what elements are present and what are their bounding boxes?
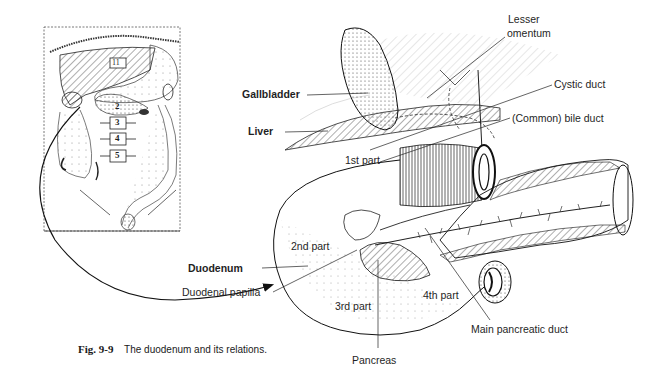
vertebra-5-label: 5 [115, 151, 120, 160]
label-pancreas: Pancreas [352, 355, 396, 366]
label-cystic-duct: Cystic duct [554, 79, 605, 90]
vertebra-4-label: 4 [115, 134, 120, 143]
label-liver: Liver [248, 126, 273, 137]
label-1st-part: 1st part [345, 155, 380, 166]
label-duodenal-papilla: Duodenal papilla [182, 287, 260, 298]
vertebra-2-label: 2 [115, 102, 120, 111]
label-duodenum: Duodenum [188, 263, 243, 274]
label-4th-part: 4th part [423, 290, 459, 301]
vertebra-3-label: 3 [115, 118, 120, 127]
label-2nd-part: 2nd part [291, 241, 330, 252]
label-lesser-omentum-line1: Lesser [508, 14, 540, 25]
label-main-pancreatic-duct: Main pancreatic duct [471, 324, 568, 335]
label-common-bile-duct: (Common) bile duct [512, 113, 604, 124]
label-gallbladder: Gallbladder [242, 89, 300, 100]
figure-caption: Fig. 9-9 The duodenum and its relations. [78, 343, 267, 355]
label-lesser-omentum-line2: omentum [507, 28, 551, 39]
vertebra-11-label: 11 [112, 59, 120, 67]
figure-caption-text: The duodenum and its relations. [124, 344, 267, 355]
figure-number: Fig. 9-9 [78, 343, 113, 355]
label-3rd-part: 3rd part [335, 301, 371, 312]
